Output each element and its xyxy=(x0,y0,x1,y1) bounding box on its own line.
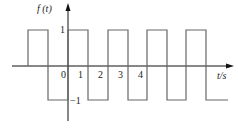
x-tick-3: 3 xyxy=(118,70,123,80)
x-tick-4: 4 xyxy=(138,70,143,80)
x-axis-label: t/s xyxy=(217,71,226,81)
square-wave xyxy=(28,30,228,100)
x-tick-2: 2 xyxy=(98,70,103,80)
square-wave-figure xyxy=(0,0,238,134)
y-tick-low: −1 xyxy=(70,96,81,106)
y-tick-high: 1 xyxy=(60,25,65,35)
x-tick-1: 1 xyxy=(78,70,83,80)
y-axis-label: f (t) xyxy=(37,4,52,14)
f-axis-arrow-icon xyxy=(66,3,71,11)
x-tick-0: 0 xyxy=(61,70,66,80)
t-axis-arrow-icon xyxy=(226,64,234,69)
